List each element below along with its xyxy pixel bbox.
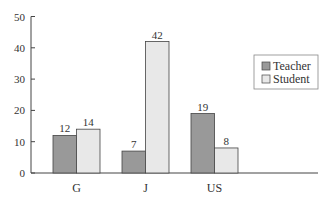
value-label: 8 (224, 135, 230, 147)
legend: TeacherStudent (254, 55, 318, 89)
value-label: 42 (152, 29, 163, 41)
x-tick-label: G (72, 181, 81, 195)
y-tick-label: 30 (14, 73, 26, 85)
legend-label-student: Student (273, 72, 310, 86)
y-tick-label: 20 (14, 104, 26, 116)
y-tick-label: 0 (20, 167, 26, 179)
bar-student-g (77, 129, 101, 173)
value-label: 14 (83, 116, 95, 128)
value-label: 19 (197, 101, 209, 113)
legend-label-teacher: Teacher (273, 59, 311, 73)
bar-student-us (215, 148, 239, 173)
x-tick-label: US (207, 181, 222, 195)
value-label: 12 (59, 122, 70, 134)
bar-chart: 01020304050 1214G742J198US TeacherStuden… (0, 0, 330, 202)
bar-teacher-g (53, 135, 77, 173)
legend-swatch-student (262, 75, 270, 83)
legend-swatch-teacher (262, 62, 270, 70)
bar-teacher-us (191, 114, 215, 173)
x-tick-label: J (143, 181, 148, 195)
y-tick-label: 50 (14, 11, 26, 23)
value-label: 7 (131, 138, 137, 150)
bar-teacher-j (122, 151, 146, 173)
bars: 1214G742J198US (53, 29, 238, 195)
y-tick-label: 10 (14, 136, 26, 148)
bar-student-j (146, 42, 170, 173)
y-tick-label: 40 (14, 42, 26, 54)
